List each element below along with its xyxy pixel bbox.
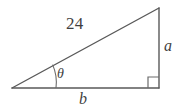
hypotenuse-line xyxy=(12,8,159,88)
angle-arc-icon xyxy=(53,65,57,88)
hypotenuse-label: 24 xyxy=(66,15,83,32)
triangle-drawing xyxy=(0,0,181,112)
triangle-figure: 24 a b θ xyxy=(0,0,181,112)
horizontal-leg-label: b xyxy=(79,91,87,107)
angle-theta-label: θ xyxy=(57,67,64,81)
vertical-leg-label: a xyxy=(164,38,172,54)
right-angle-marker-icon xyxy=(148,77,159,88)
